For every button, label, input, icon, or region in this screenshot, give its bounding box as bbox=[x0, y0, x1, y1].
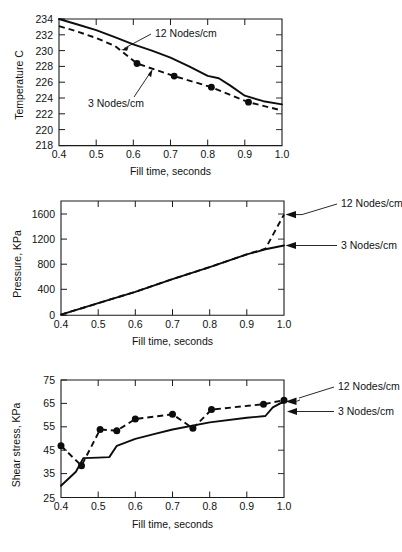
pressure-y-axis-title: Pressure, KPa bbox=[11, 230, 23, 298]
pressure-y-ticks bbox=[61, 214, 67, 315]
x-tick-label: 0.4 bbox=[52, 148, 67, 160]
y-tick-label: 222 bbox=[35, 108, 53, 120]
pressure-series-12-nodes bbox=[61, 215, 284, 315]
temperature-y-ticks bbox=[59, 19, 65, 146]
pressure-y-tick-labels: 1600 1200 800 400 0 bbox=[32, 208, 56, 321]
y-tick-label: 218 bbox=[35, 139, 53, 151]
x-tick-label: 0.7 bbox=[165, 500, 180, 512]
y-tick-label: 55 bbox=[43, 420, 55, 432]
y-tick-label: 400 bbox=[37, 283, 55, 295]
y-tick-label: 800 bbox=[37, 258, 55, 270]
shear-annotation-12-nodes: 12 Nodes/cm bbox=[286, 380, 401, 405]
annotation-label: 12 Nodes/cm bbox=[338, 380, 400, 392]
x-tick-label: 0.4 bbox=[54, 500, 69, 512]
y-tick-label: 45 bbox=[43, 444, 55, 456]
shear-x-ticks bbox=[98, 380, 247, 498]
x-tick-label: 1.0 bbox=[277, 318, 292, 330]
shear-y-ticks-right bbox=[278, 403, 284, 473]
x-tick-label: 0.6 bbox=[126, 148, 141, 160]
temperature-y-tick-labels: 234 232 230 228 226 224 222 220 218 bbox=[35, 13, 53, 151]
temperature-data-markers bbox=[134, 60, 252, 106]
pressure-chart-svg: Pressure, KPa 1600 1200 800 400 0 bbox=[0, 182, 402, 362]
y-tick-label: 35 bbox=[43, 467, 55, 479]
y-tick-label: 230 bbox=[35, 45, 53, 57]
x-tick-label: 0.4 bbox=[54, 318, 69, 330]
annotation-label: 3 Nodes/cm bbox=[88, 97, 144, 109]
x-tick-label: 0.5 bbox=[91, 318, 106, 330]
pressure-x-tick-labels: 0.4 0.5 0.6 0.7 0.8 0.9 1.0 bbox=[54, 318, 292, 330]
pressure-plot-frame bbox=[61, 201, 284, 315]
x-tick-label: 0.8 bbox=[202, 318, 217, 330]
x-tick-label: 0.6 bbox=[128, 500, 143, 512]
chart-panel-shear-stress: Shear stress, KPa 75 65 55 45 35 25 bbox=[0, 362, 402, 552]
y-tick-label: 220 bbox=[35, 124, 53, 136]
pressure-x-axis-title: Fill time, seconds bbox=[132, 335, 213, 347]
x-tick-label: 0.9 bbox=[239, 318, 254, 330]
annotation-label: 3 Nodes/cm bbox=[338, 405, 394, 417]
x-tick-label: 0.7 bbox=[163, 148, 178, 160]
pressure-x-ticks bbox=[98, 201, 247, 315]
y-tick-label: 1600 bbox=[32, 208, 56, 220]
y-tick-label: 232 bbox=[35, 29, 53, 41]
temperature-x-axis-title: Fill time, seconds bbox=[130, 165, 211, 177]
x-tick-label: 0.8 bbox=[200, 148, 215, 160]
pressure-annotation-3-nodes: 3 Nodes/cm bbox=[286, 239, 398, 251]
y-tick-label: 234 bbox=[35, 13, 53, 25]
x-tick-label: 0.7 bbox=[165, 318, 180, 330]
pressure-annotation-12-nodes: 12 Nodes/cm bbox=[286, 197, 402, 218]
shear-plot-frame bbox=[61, 380, 284, 498]
annotation-label: 12 Nodes/cm bbox=[341, 197, 402, 209]
y-tick-label: 226 bbox=[35, 76, 53, 88]
chart-panel-temperature: Temperature C 234 232 230 228 226 224 22… bbox=[0, 0, 402, 182]
chart-panel-pressure: Pressure, KPa 1600 1200 800 400 0 bbox=[0, 182, 402, 362]
temperature-chart-svg: Temperature C 234 232 230 228 226 224 22… bbox=[0, 0, 402, 182]
x-tick-label: 0.8 bbox=[202, 500, 217, 512]
temperature-annotation-12-nodes: 12 Nodes/cm bbox=[121, 27, 217, 51]
x-tick-label: 0.9 bbox=[239, 500, 254, 512]
y-tick-label: 75 bbox=[43, 374, 55, 386]
shear-annotation-3-nodes: 3 Nodes/cm bbox=[287, 405, 394, 417]
shear-y-tick-labels: 75 65 55 45 35 25 bbox=[43, 374, 55, 504]
x-tick-label: 0.9 bbox=[237, 148, 252, 160]
x-tick-label: 1.0 bbox=[275, 148, 290, 160]
y-tick-label: 224 bbox=[35, 92, 53, 104]
annotation-label: 3 Nodes/cm bbox=[341, 239, 397, 251]
temperature-annotation-3-nodes: 3 Nodes/cm bbox=[88, 69, 153, 109]
annotation-label: 12 Nodes/cm bbox=[155, 27, 217, 39]
shear-y-axis-title: Shear stress, KPa bbox=[10, 403, 22, 488]
y-tick-label: 65 bbox=[43, 397, 55, 409]
y-tick-label: 228 bbox=[35, 60, 53, 72]
shear-chart-svg: Shear stress, KPa 75 65 55 45 35 25 bbox=[0, 362, 402, 552]
figure-container: Temperature C 234 232 230 228 226 224 22… bbox=[0, 0, 402, 552]
temperature-y-ticks-right bbox=[276, 35, 282, 130]
shear-x-axis-title: Fill time, seconds bbox=[132, 518, 213, 530]
temperature-x-tick-labels: 0.4 0.5 0.6 0.7 0.8 0.9 1.0 bbox=[52, 148, 290, 160]
temperature-y-axis-title: Temperature C bbox=[13, 50, 25, 120]
pressure-series-3-nodes bbox=[61, 246, 284, 315]
x-tick-label: 0.6 bbox=[128, 318, 143, 330]
shear-series-3-nodes bbox=[61, 400, 284, 466]
y-tick-label: 1200 bbox=[32, 233, 56, 245]
x-tick-label: 0.5 bbox=[89, 148, 104, 160]
shear-x-tick-labels: 0.4 0.5 0.6 0.7 0.8 0.9 1.0 bbox=[54, 500, 292, 512]
x-tick-label: 1.0 bbox=[277, 500, 292, 512]
x-tick-label: 0.5 bbox=[91, 500, 106, 512]
